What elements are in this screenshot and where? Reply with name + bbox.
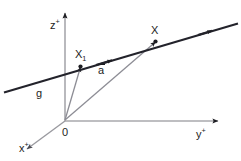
origin-label: 0 — [62, 127, 68, 138]
y-axis-label: y+ — [196, 129, 206, 140]
z-axis-label: z+ — [50, 20, 60, 31]
x-axis — [27, 121, 65, 149]
line-label-g: g — [36, 88, 42, 99]
x-axis-label: x+ — [19, 143, 29, 154]
direction-vector-label-a: a — [98, 64, 104, 76]
vector-line-diagram: z+ y+ x+ X1 X g 0 a — [0, 0, 241, 161]
point-label-x1: X1 — [75, 49, 86, 60]
point-label-x: X — [151, 25, 158, 36]
point-marker-x1 — [78, 64, 82, 68]
point-marker-x — [153, 39, 157, 43]
